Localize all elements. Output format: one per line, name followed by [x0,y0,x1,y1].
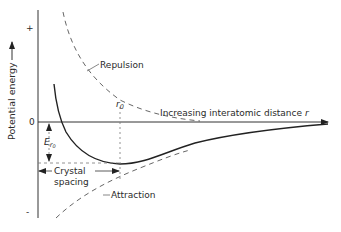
repulsion-label: Repulsion [100,60,144,70]
net-potential-curve [54,84,328,164]
attraction-label: Attraction [111,190,155,200]
x-axis-label: Increasing interatomic distance r [160,108,310,118]
y-tick-plus: + [26,23,34,33]
er0-label: Er0 [44,137,56,149]
y-tick-minus: - [26,207,29,217]
spacing-label: spacing [54,177,89,187]
y-tick-zero: 0 [29,117,35,127]
y-axis-label: Potential energy [6,42,17,140]
svg-text:Potential energy: Potential energy [6,62,17,140]
repulsion-leader [87,64,99,71]
r0-label: r0 [116,99,124,111]
crystal-label: Crystal [54,166,86,176]
potential-energy-diagram: + 0 - Potential energy Repulsion Attract… [0,0,341,232]
